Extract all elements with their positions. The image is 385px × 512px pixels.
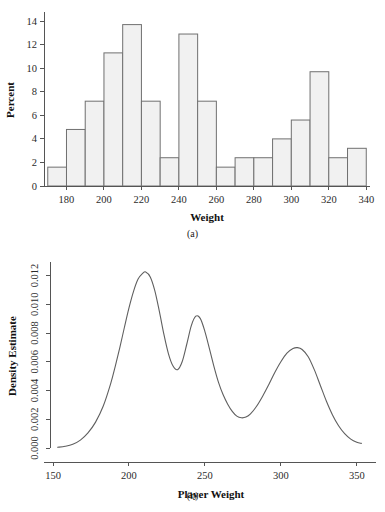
y-axis-title: Percent	[4, 82, 16, 118]
x-tick-label: 200	[96, 194, 112, 205]
histogram-bar	[141, 101, 160, 186]
y-tick-label: 6	[32, 110, 37, 121]
y-tick-label: 0.006	[29, 350, 40, 374]
x-tick-label: 350	[349, 470, 365, 481]
panel-a-caption: (a)	[0, 228, 385, 239]
y-tick-label: 0	[32, 181, 37, 192]
x-tick-label: 220	[134, 194, 150, 205]
x-tick-label: 180	[59, 194, 75, 205]
y-tick-label: 2	[32, 157, 37, 168]
y-tick-label: 0.000	[29, 436, 40, 460]
x-tick-label: 240	[171, 194, 187, 205]
density-svg: 0.0000.0020.0040.0060.0080.0100.01215020…	[0, 250, 385, 512]
x-tick-label: 260	[208, 194, 224, 205]
y-tick-label: 0.010	[29, 292, 40, 316]
histogram-bar	[348, 148, 367, 186]
histogram-svg: 02468101214180200220240260280300320340We…	[0, 0, 385, 250]
x-tick-label: 150	[45, 470, 61, 481]
histogram-bar	[104, 53, 123, 186]
y-tick-label: 8	[32, 86, 37, 97]
histogram-bar	[254, 158, 273, 186]
histogram-bar	[291, 120, 310, 186]
histogram-bar	[123, 25, 142, 186]
histogram-bar	[198, 101, 217, 186]
y-tick-label: 0.002	[29, 407, 40, 431]
histogram-bar	[48, 167, 67, 186]
x-tick-label: 280	[246, 194, 262, 205]
y-tick-label: 0.004	[29, 378, 40, 402]
y-tick-label: 14	[27, 16, 38, 27]
histogram-bar	[160, 158, 179, 186]
histogram-panel: 02468101214180200220240260280300320340We…	[0, 0, 385, 250]
x-tick-label: 250	[197, 470, 213, 481]
histogram-bar	[273, 139, 292, 186]
histogram-plot-area: 02468101214180200220240260280300320340We…	[4, 12, 374, 223]
density-panel: 0.0000.0020.0040.0060.0080.0100.01215020…	[0, 250, 385, 512]
y-axis-title: Density Estimate	[6, 316, 18, 396]
histogram-bar	[216, 167, 235, 186]
histogram-bar	[310, 72, 329, 186]
y-tick-label: 0.012	[29, 264, 40, 288]
histogram-bar	[85, 101, 104, 186]
density-curve	[58, 272, 362, 448]
histogram-bar	[66, 129, 85, 186]
y-tick-label: 0.008	[29, 321, 40, 345]
x-axis-title: Weight	[190, 211, 224, 223]
histogram-bar	[329, 158, 348, 186]
x-tick-label: 300	[283, 194, 299, 205]
histogram-bar	[235, 158, 254, 186]
x-tick-label: 300	[273, 470, 289, 481]
panel-b-caption: (b)	[0, 490, 385, 501]
histogram-bar	[179, 34, 198, 186]
x-tick-label: 340	[358, 194, 374, 205]
y-tick-label: 4	[32, 133, 38, 144]
y-tick-label: 12	[27, 39, 38, 50]
x-tick-label: 200	[121, 470, 137, 481]
x-tick-label: 320	[321, 194, 337, 205]
density-plot-area: 0.0000.0020.0040.0060.0080.0100.01215020…	[6, 262, 376, 500]
y-tick-label: 10	[27, 63, 38, 74]
